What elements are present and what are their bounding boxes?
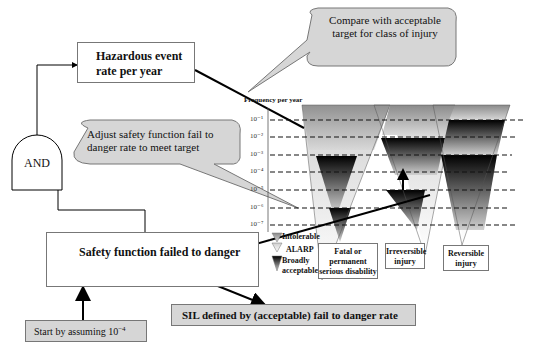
safety-function-box: Safety function failed to danger	[46, 232, 259, 287]
start-assumption-exponent: −4	[118, 325, 125, 333]
start-assumption-label: Start by assuming 10	[34, 326, 118, 337]
category-reversible: Reversible injury	[443, 245, 489, 271]
hazardous-event-label: Hazardous event rate per year	[96, 49, 182, 78]
adjust-callout-text: Adjust safety function fail to danger ra…	[87, 128, 213, 153]
and-gate: AND	[12, 156, 62, 171]
tick-3: 10⁻³	[250, 150, 263, 158]
category-fatal: Fatal or permanent serious disability	[318, 243, 378, 279]
safety-function-label: Safety function failed to danger	[79, 245, 240, 259]
legend-alarp: ALARP	[286, 245, 314, 255]
frequency-axis-title: Frequency per year	[244, 96, 302, 104]
sil-defined-box: SIL defined by (acceptable) fail to dang…	[171, 304, 416, 326]
category-irreversible: Irreversible injury	[385, 243, 425, 269]
compare-callout-text: Compare with acceptable target for class…	[329, 14, 441, 39]
legend-intolerable: Intolerable	[282, 232, 320, 242]
tick-2: 10⁻²	[250, 132, 263, 140]
start-assumption-box: Start by assuming 10−4	[25, 320, 147, 342]
sil-defined-label: SIL defined by (acceptable) fail to dang…	[182, 309, 398, 321]
legend-broadly-acceptable: Broadly acceptable	[282, 256, 320, 276]
tick-5: 10⁻⁵	[250, 185, 263, 193]
compare-callout: Compare with acceptable target for class…	[320, 14, 450, 40]
hazardous-event-box: Hazardous event rate per year	[77, 42, 195, 83]
tick-6: 10⁻⁶	[250, 203, 263, 211]
tick-4: 10⁻⁴	[250, 167, 263, 175]
tick-7: 10⁻⁷	[250, 220, 263, 228]
and-gate-label: AND	[24, 156, 50, 170]
adjust-callout: Adjust safety function fail to danger ra…	[87, 128, 237, 154]
tick-1: 10⁻¹	[250, 115, 263, 123]
